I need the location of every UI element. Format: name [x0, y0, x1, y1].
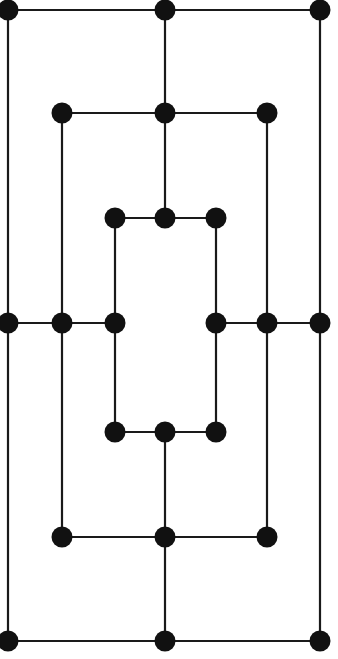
graph-node[interactable] [310, 0, 331, 21]
graph-node[interactable] [52, 313, 73, 334]
graph-node[interactable] [206, 313, 227, 334]
diagram-canvas [0, 0, 338, 659]
graph-node[interactable] [155, 0, 176, 21]
graph-node[interactable] [206, 208, 227, 229]
graph-node[interactable] [257, 527, 278, 548]
graph-node[interactable] [206, 422, 227, 443]
graph-node[interactable] [52, 103, 73, 124]
graph-node[interactable] [105, 313, 126, 334]
graph-node[interactable] [52, 527, 73, 548]
graph-node[interactable] [155, 527, 176, 548]
graph-node[interactable] [155, 208, 176, 229]
graph-node[interactable] [310, 631, 331, 652]
node-lattice-svg [0, 0, 338, 659]
background-rect [0, 0, 338, 659]
graph-node[interactable] [310, 313, 331, 334]
graph-node[interactable] [257, 103, 278, 124]
graph-node[interactable] [105, 422, 126, 443]
graph-node[interactable] [257, 313, 278, 334]
graph-node[interactable] [105, 208, 126, 229]
graph-node[interactable] [155, 422, 176, 443]
graph-node[interactable] [155, 631, 176, 652]
graph-node[interactable] [155, 103, 176, 124]
